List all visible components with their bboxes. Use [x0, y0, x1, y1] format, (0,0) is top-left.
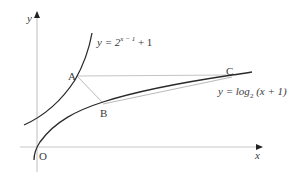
point-a-label: A	[68, 70, 76, 82]
x-axis-label: x	[254, 149, 260, 161]
segment-ac	[77, 75, 232, 76]
guide-lines	[77, 75, 232, 104]
point-b-label: B	[100, 107, 107, 119]
origin-label: O	[39, 150, 47, 162]
graph-figure: y x O A B C y = 2x − 1 + 1 y = log2 (x +…	[0, 0, 308, 179]
exponential-curve	[24, 33, 92, 125]
logarithm-label: y = log2 (x + 1)	[217, 85, 287, 100]
exponential-label: y = 2x − 1 + 1	[96, 35, 152, 48]
point-c-label: C	[226, 65, 233, 77]
y-axis-label: y	[26, 12, 32, 24]
segment-bc	[103, 77, 232, 104]
segment-ab	[77, 76, 103, 103]
